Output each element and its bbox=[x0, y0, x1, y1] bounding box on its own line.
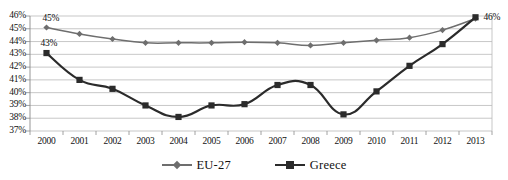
x-axis-ticks bbox=[26, 16, 492, 135]
y-axis-tick-label: 37% bbox=[0, 125, 26, 135]
x-axis-tick-label: 2012 bbox=[426, 136, 460, 146]
legend-label: EU-27 bbox=[197, 158, 231, 173]
line-chart: 37%38%39%40%41%42%43%44%45%46% 200020012… bbox=[0, 0, 508, 180]
x-axis-tick-label: 2008 bbox=[294, 136, 328, 146]
y-axis-tick-label: 40% bbox=[0, 87, 26, 97]
x-axis-tick-label: 2006 bbox=[228, 136, 262, 146]
x-axis-tick-label: 2004 bbox=[162, 136, 196, 146]
data-point-label: 43% bbox=[41, 38, 58, 48]
x-axis-tick-label: 2000 bbox=[30, 136, 64, 146]
y-axis-tick-label: 38% bbox=[0, 112, 26, 122]
series-eu-27 bbox=[43, 15, 478, 48]
x-axis-tick-label: 2002 bbox=[96, 136, 130, 146]
y-axis-tick-label: 39% bbox=[0, 99, 26, 109]
gridlines bbox=[30, 16, 492, 131]
y-axis-tick-label: 46% bbox=[0, 10, 26, 20]
axis-lines bbox=[30, 16, 492, 131]
y-axis-tick-label: 43% bbox=[0, 48, 26, 58]
y-axis-tick-label: 45% bbox=[0, 23, 26, 33]
y-axis-tick-label: 41% bbox=[0, 74, 26, 84]
chart-legend: EU-27Greece bbox=[0, 154, 508, 176]
y-axis-tick-label: 42% bbox=[0, 61, 26, 71]
y-axis-tick-label: 44% bbox=[0, 36, 26, 46]
x-axis-tick-label: 2013 bbox=[459, 136, 493, 146]
x-axis-tick-label: 2011 bbox=[393, 136, 427, 146]
legend-key-icon bbox=[162, 159, 192, 171]
legend-key-icon bbox=[275, 159, 305, 171]
x-axis-tick-label: 2009 bbox=[327, 136, 361, 146]
x-axis-tick-label: 2005 bbox=[195, 136, 229, 146]
x-axis-tick-label: 2001 bbox=[63, 136, 97, 146]
x-axis-tick-label: 2003 bbox=[129, 136, 163, 146]
legend-entry-greece[interactable]: Greece bbox=[275, 158, 347, 173]
x-axis-tick-label: 2007 bbox=[261, 136, 295, 146]
legend-label: Greece bbox=[310, 158, 347, 173]
legend-entry-eu-27[interactable]: EU-27 bbox=[162, 158, 231, 173]
data-point-label: 45% bbox=[43, 13, 60, 23]
x-axis-tick-label: 2010 bbox=[360, 136, 394, 146]
chart-plot-area bbox=[0, 0, 508, 180]
data-point-label: 46% bbox=[484, 12, 501, 22]
